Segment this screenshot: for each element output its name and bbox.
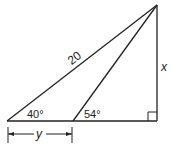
- base-segment-label: y: [35, 127, 43, 141]
- arrow-right-icon: [66, 132, 72, 136]
- triangle-diagram: 20 x 40° 54° y: [0, 0, 178, 153]
- height-label: x: [160, 60, 168, 74]
- right-angle-marker: [148, 112, 157, 121]
- inner-angle-label: 54°: [84, 108, 101, 120]
- inner-line: [73, 5, 157, 121]
- hypotenuse-line: [7, 5, 157, 121]
- hypotenuse-label: 20: [65, 48, 84, 67]
- left-angle-label: 40°: [27, 108, 44, 120]
- arrow-left-icon: [8, 132, 14, 136]
